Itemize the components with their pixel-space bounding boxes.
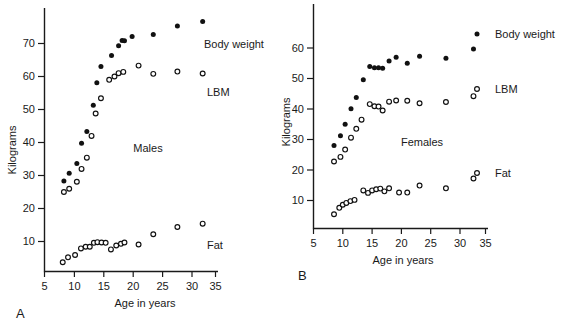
data-point <box>175 225 180 230</box>
data-point <box>84 129 89 134</box>
series-body-weight <box>61 19 205 184</box>
data-point <box>343 147 348 152</box>
data-point <box>60 260 65 265</box>
data-point <box>130 34 135 39</box>
series-label-lbm-a: LBM <box>207 86 230 98</box>
data-point <box>175 69 180 74</box>
data-point <box>349 106 354 111</box>
y-tick-40-a: 40 <box>23 136 35 148</box>
x-axis-tick-labels: 5 10 15 20 25 30 35 <box>310 237 491 249</box>
data-point <box>397 190 402 195</box>
legend-marker-lbm-b <box>475 87 480 92</box>
legend-marker-body-weight-b <box>475 32 480 37</box>
data-point <box>136 63 141 68</box>
data-point <box>332 159 337 164</box>
data-point <box>361 77 366 82</box>
series-label-body-weight-b: Body weight <box>495 28 555 40</box>
data-point <box>91 103 96 108</box>
data-point <box>109 247 114 252</box>
x-tick-5-a: 5 <box>41 280 47 292</box>
data-point <box>67 186 72 191</box>
data-point <box>338 154 343 159</box>
data-point <box>74 161 79 166</box>
data-point <box>62 190 67 195</box>
series-label-body-weight-a: Body weight <box>204 38 264 50</box>
x-tick-35-a: 35 <box>209 280 221 292</box>
y-tick-30-b: 30 <box>292 133 304 145</box>
data-point <box>387 59 392 64</box>
series-fat <box>60 221 205 264</box>
data-point <box>444 186 449 191</box>
data-point <box>471 176 476 181</box>
y-axis-tick-labels: 10 20 30 40 50 60 70 <box>23 37 35 247</box>
data-point <box>66 255 71 260</box>
y-tick-20-a: 20 <box>23 202 35 214</box>
data-point <box>380 108 385 113</box>
y-tick-50-b: 50 <box>292 72 304 84</box>
data-point <box>116 71 121 76</box>
data-point <box>122 240 127 245</box>
x-tick-25-b: 25 <box>425 237 437 249</box>
legend-marker-fat-b <box>475 171 480 176</box>
x-tick-10-a: 10 <box>68 280 80 292</box>
data-point <box>200 221 205 226</box>
data-point <box>405 61 410 66</box>
y-tick-50-a: 50 <box>23 103 35 115</box>
x-tick-30-b: 30 <box>454 237 466 249</box>
x-axis-ticks <box>45 272 216 278</box>
data-point <box>99 96 104 101</box>
y-tick-10-a: 10 <box>23 235 35 247</box>
data-point <box>89 134 94 139</box>
data-point <box>151 71 156 76</box>
data-point <box>332 143 337 148</box>
x-tick-10-b: 10 <box>337 237 349 249</box>
data-point <box>98 64 103 69</box>
data-point <box>107 77 112 82</box>
data-point <box>359 117 364 122</box>
panel-label-b: B <box>298 268 307 283</box>
panel-label-a: A <box>16 306 25 321</box>
data-point <box>79 246 84 251</box>
y-axis-ticks <box>38 44 45 242</box>
data-point <box>79 141 84 146</box>
data-point <box>394 98 399 103</box>
series-body-weight <box>332 46 476 148</box>
data-point <box>343 122 348 127</box>
y-tick-30-a: 30 <box>23 169 35 181</box>
data-point <box>361 188 366 193</box>
series-lbm <box>62 63 206 194</box>
data-point <box>349 135 354 140</box>
y-tick-40-b: 40 <box>292 103 304 115</box>
data-point <box>109 53 114 58</box>
x-tick-25-a: 25 <box>156 280 168 292</box>
y-axis-ticks <box>307 48 314 201</box>
data-point <box>87 244 92 249</box>
data-point <box>352 197 357 202</box>
data-point <box>367 102 372 107</box>
data-point <box>354 126 359 131</box>
data-point <box>84 155 89 160</box>
series-label-fat-a: Fat <box>207 239 223 251</box>
annotation-females: Females <box>401 136 444 148</box>
x-tick-15-a: 15 <box>98 280 110 292</box>
series-fat <box>332 176 476 216</box>
data-point <box>151 32 156 37</box>
series-label-lbm-b: LBM <box>495 83 518 95</box>
panel-b-females: 10 20 30 40 50 60 5 10 15 20 <box>281 0 562 323</box>
figure-body-composition: 10 20 30 40 50 60 70 5 10 15 <box>0 0 562 323</box>
series-lbm <box>332 94 476 164</box>
axis-lines <box>45 8 219 272</box>
data-point <box>387 99 392 104</box>
x-tick-20-a: 20 <box>127 280 139 292</box>
panel-a-males: 10 20 30 40 50 60 70 5 10 15 <box>0 0 281 323</box>
data-point <box>103 240 108 245</box>
x-tick-30-a: 30 <box>186 280 198 292</box>
x-axis-ticks <box>314 229 486 235</box>
data-point <box>382 189 387 194</box>
data-point <box>394 55 399 60</box>
data-point <box>387 186 392 191</box>
data-point <box>200 19 205 24</box>
y-tick-60-a: 60 <box>23 70 35 82</box>
data-point <box>67 171 72 176</box>
data-point <box>405 190 410 195</box>
